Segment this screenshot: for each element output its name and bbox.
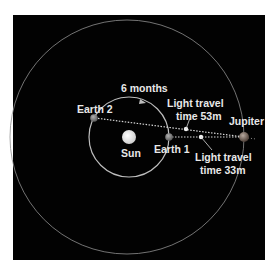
label-sun: Sun [121,147,141,159]
pointer-33m [201,137,212,150]
label-33m-line2: time 33m [200,164,246,176]
label-53m-line2: time 53m [176,110,222,122]
label-33m-line1: Light travel [195,151,252,163]
label-six-months: 6 months [121,82,168,94]
solar-diagram: 6 months Earth 2 Sun Earth 1 Jupiter Lig… [0,0,278,273]
jupiter-icon [239,132,249,142]
earth1-icon [165,133,173,141]
sun-icon [122,130,136,144]
label-earth1: Earth 1 [154,143,190,155]
label-jupiter: Jupiter [229,115,264,127]
label-53m-line1: Light travel [167,97,224,109]
path-extension [248,138,256,139]
earth2-icon [90,114,98,122]
label-earth2: Earth 2 [77,103,113,115]
